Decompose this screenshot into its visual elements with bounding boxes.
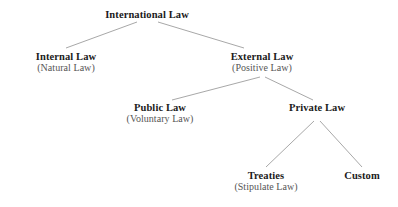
node-private-law: Private Law: [289, 102, 345, 113]
edge-international-to-external: [158, 22, 244, 48]
edge-private-to-treaties: [266, 121, 314, 167]
node-public-law-subtitle: (Voluntary Law): [127, 114, 194, 125]
node-public-law-title: Public Law: [127, 102, 194, 113]
node-external-law-title: External Law: [231, 51, 294, 62]
node-internal-law-subtitle: (Natural Law): [36, 63, 96, 74]
edge-external-to-private: [265, 77, 313, 100]
node-custom: Custom: [344, 170, 380, 181]
node-treaties-subtitle: (Stipulate Law): [234, 182, 297, 193]
law-hierarchy-diagram: International Law Internal Law (Natural …: [0, 0, 398, 207]
edge-external-to-public: [172, 77, 260, 100]
node-internal-law: Internal Law (Natural Law): [36, 51, 96, 74]
node-internal-law-title: Internal Law: [36, 51, 96, 62]
node-custom-title: Custom: [344, 170, 380, 181]
edge-international-to-internal: [66, 22, 137, 48]
node-external-law-subtitle: (Positive Law): [231, 63, 294, 74]
edge-private-to-custom: [320, 121, 362, 167]
node-international-law: International Law: [105, 9, 189, 20]
node-external-law: External Law (Positive Law): [231, 51, 294, 74]
node-treaties-title: Treaties: [234, 170, 297, 181]
node-public-law: Public Law (Voluntary Law): [127, 102, 194, 125]
node-private-law-title: Private Law: [289, 102, 345, 113]
node-treaties: Treaties (Stipulate Law): [234, 170, 297, 193]
node-international-law-title: International Law: [105, 9, 189, 20]
